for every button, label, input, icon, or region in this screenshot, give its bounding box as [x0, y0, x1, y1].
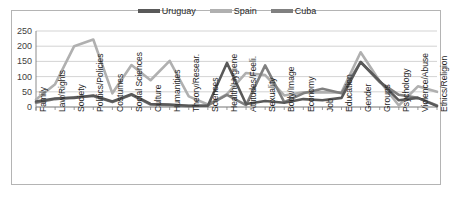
x-axis-label: Body/Image	[287, 67, 296, 112]
x-axis-label: Sexuality	[268, 78, 277, 113]
x-axis-label: Society	[77, 84, 86, 112]
x-axis-label: Politics/Policies	[96, 53, 105, 112]
x-axis-label: Gender	[364, 84, 373, 112]
x-axis-label: Education	[345, 74, 354, 112]
x-axis-label: Family	[39, 87, 48, 112]
x-axis-label: Job	[326, 98, 335, 112]
x-axis-label: Sciences	[211, 78, 220, 113]
x-axis-label: Groups	[383, 84, 392, 112]
x-axis-label: Law/Rights	[58, 70, 67, 112]
x-axis-label: Economy	[307, 77, 316, 112]
x-axis-label: Attitudes/Feeli.	[249, 56, 258, 112]
x-axis-label: Culture	[154, 85, 163, 112]
x-axis-label: Theory/Resear.	[192, 54, 201, 112]
x-axis-label: Humanities	[173, 69, 182, 112]
x-axis-label: Ethics/Religion	[440, 56, 449, 112]
x-axis-labels: FamilyLaw/RightsSocietyPolitics/Policies…	[0, 0, 454, 198]
x-axis-label: Health/Hygiene	[230, 54, 239, 112]
x-axis-label: Violence/Abuse	[421, 53, 430, 112]
x-axis-label: Costumes	[116, 74, 125, 112]
x-axis-label: Social Sciences	[135, 52, 144, 112]
x-axis-label: Psychology	[402, 69, 411, 112]
